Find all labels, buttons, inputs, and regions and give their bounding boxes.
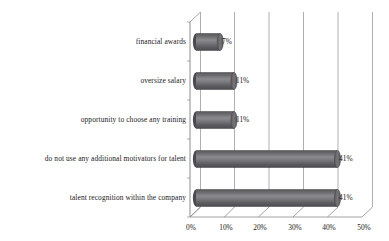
value-label-opportunity-training: 11%: [236, 116, 249, 123]
value-label-oversize-salary: 11%: [236, 77, 249, 84]
category-label-talent-recognition: talent recognition within the company: [70, 194, 186, 201]
value-label-talent-recognition: 41%: [339, 194, 353, 201]
xtick-label-0: 0%: [186, 224, 196, 231]
category-label-no-additional-motivators: do not use any additional motivators for…: [45, 155, 186, 162]
category-label-opportunity-training: opportunity to choose any training: [81, 116, 186, 123]
xtick-label-40: 40%: [322, 224, 336, 231]
category-label-financial-awards: financial awards: [136, 38, 186, 45]
xtick-label-50: 50%: [357, 224, 371, 231]
bar-talent-recognition: [193, 190, 341, 207]
bar-financial-awards: [193, 34, 223, 51]
xtick-label-30: 30%: [288, 224, 302, 231]
value-label-no-additional-motivators: 41%: [339, 155, 353, 162]
bar-oversize-salary: [193, 73, 237, 90]
value-label-financial-awards: 7%: [222, 38, 232, 45]
x-axis-floor: [190, 207, 373, 217]
bar-no-additional-motivators: [193, 151, 341, 168]
category-label-oversize-salary: oversize salary: [140, 77, 186, 84]
plot-area: [0, 0, 389, 241]
xtick-label-10: 10%: [219, 224, 233, 231]
bar-opportunity-training: [193, 112, 237, 129]
xtick-label-20: 20%: [253, 224, 267, 231]
bar-chart: financial awards oversize salary opportu…: [0, 0, 389, 241]
